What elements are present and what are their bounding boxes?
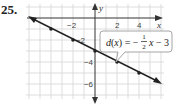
graph: y x −2 2 4 −2 −4 −6 d(x) = − 1 2 x − 3 [0, 0, 179, 107]
y-axis-arrow-up-icon [92, 3, 98, 10]
y-tick-neg6: −6 [84, 80, 94, 89]
callout-rhs: x − 3 [148, 37, 169, 48]
y-axis-arrow-down-icon [92, 97, 98, 104]
x-tick-2: 2 [115, 21, 120, 30]
callout-denominator: 2 [142, 43, 146, 51]
callout-lhs: d(x) = − [106, 37, 139, 49]
x-axis-label: x [156, 20, 161, 30]
x-tick-neg2: −2 [67, 21, 77, 30]
y-tick-neg4: −4 [84, 58, 94, 67]
x-tick-4: 4 [137, 21, 142, 30]
callout-numerator: 1 [142, 33, 146, 41]
y-axis-label: y [98, 3, 103, 13]
